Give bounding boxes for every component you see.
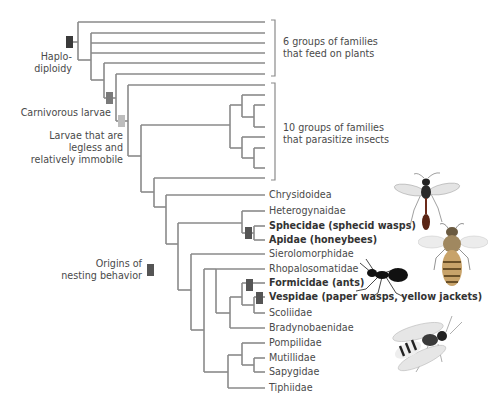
taxon-chrysidoidea: Chrysidoidea xyxy=(269,189,332,201)
taxon-tiphiidae: Tiphiidae xyxy=(269,382,313,394)
honeybee-illustration xyxy=(418,222,488,294)
carnivorous-larvae-marker xyxy=(106,92,113,104)
haplodiploidy-line1: Haplo- xyxy=(20,51,72,63)
yellow-jacket-illustration xyxy=(378,310,478,380)
haplodiploidy-label: Haplo- diploidy xyxy=(20,51,72,75)
taxon-formicidae: Formicidae (ants) xyxy=(269,277,364,289)
haplodiploidy-marker xyxy=(66,36,73,48)
legless-line2: legless and xyxy=(10,142,123,154)
nesting-marker-ants xyxy=(246,279,253,291)
nesting-line2: nesting behavior xyxy=(30,270,142,282)
taxon-sierolomorphidae: Sierolomorphidae xyxy=(269,248,354,260)
ant-illustration xyxy=(352,257,412,299)
legless-larvae-marker xyxy=(118,115,125,127)
parasitoids-label: 10 groups of families that parasitize in… xyxy=(283,122,389,146)
taxon-heterogynaidae: Heterogynaidae xyxy=(269,205,346,217)
carnivorous-text: Carnivorous larvae xyxy=(10,107,111,119)
haplodiploidy-line2: diploidy xyxy=(20,63,72,75)
legless-line3: relatively immobile xyxy=(10,154,123,166)
parasitoids-line2: that parasitize insects xyxy=(283,134,389,146)
plant-feeders-line1: 6 groups of families xyxy=(283,36,378,48)
nesting-legend-marker xyxy=(147,264,154,276)
plant-feeders-label: 6 groups of families that feed on plants xyxy=(283,36,378,60)
nesting-marker-vespids xyxy=(256,292,263,304)
tree-branches xyxy=(66,22,265,388)
plant-feeders-line2: that feed on plants xyxy=(283,48,378,60)
legless-larvae-label: Larvae that are legless and relatively i… xyxy=(10,130,123,166)
taxon-sapygidae: Sapygidae xyxy=(269,366,319,378)
carnivorous-larvae-label: Carnivorous larvae xyxy=(10,107,111,119)
taxon-rhopalosomatidae: Rhopalosomatidae xyxy=(269,263,359,275)
nesting-line1: Origins of xyxy=(30,258,142,270)
parasitoids-line1: 10 groups of families xyxy=(283,122,389,134)
legless-line1: Larvae that are xyxy=(10,130,123,142)
taxon-mutillidae: Mutillidae xyxy=(269,352,316,364)
nesting-label: Origins of nesting behavior xyxy=(30,258,142,282)
taxon-apidae: Apidae (honeybees) xyxy=(269,234,377,246)
taxon-bradynobaenidae: Bradynobaenidae xyxy=(269,322,354,334)
taxon-pompilidae: Pompilidae xyxy=(269,337,322,349)
nesting-marker-bees xyxy=(245,227,252,239)
group-brackets xyxy=(271,20,275,180)
taxon-scoliidae: Scoliidae xyxy=(269,307,312,319)
